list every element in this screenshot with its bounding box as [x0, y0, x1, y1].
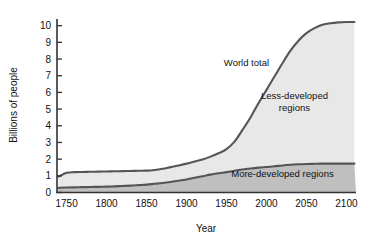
x-axis-tick-label: 1750 — [55, 198, 78, 209]
annotation-more-developed-regions: More-developed regions — [231, 168, 334, 179]
y-axis-tick-label: 9 — [45, 37, 51, 48]
x-axis-tick-label: 2100 — [335, 198, 358, 209]
y-axis-title: Billions of people — [8, 67, 19, 143]
y-axis-tick-label: 10 — [40, 20, 52, 31]
y-axis-tick-label: 6 — [45, 87, 51, 98]
y-axis-tick-label: 1 — [45, 170, 51, 181]
x-axis-tick-label: 2000 — [255, 198, 278, 209]
y-axis-tick-label: 7 — [45, 70, 51, 81]
annotation-world-total: World total — [224, 57, 269, 68]
y-axis-tick-label: 4 — [45, 120, 51, 131]
x-axis-tick-label: 1850 — [135, 198, 158, 209]
y-axis-tick-label: 0 — [45, 187, 51, 198]
population-growth-chart-figure: 012345678910 175018001850190019502000205… — [0, 0, 373, 243]
y-axis-tick-label: 3 — [45, 137, 51, 148]
y-axis-tick-label: 2 — [45, 154, 51, 165]
y-axis-tick-label: 8 — [45, 54, 51, 65]
x-axis-title: Year — [196, 223, 217, 234]
x-axis-tick-label: 1950 — [215, 198, 238, 209]
chart-canvas: 012345678910 175018001850190019502000205… — [0, 0, 373, 243]
x-axis-tick-label: 1900 — [175, 198, 198, 209]
y-axis-tick-label: 5 — [45, 104, 51, 115]
x-axis-tick-label: 2050 — [295, 198, 318, 209]
x-axis-tick-label: 1800 — [95, 198, 118, 209]
